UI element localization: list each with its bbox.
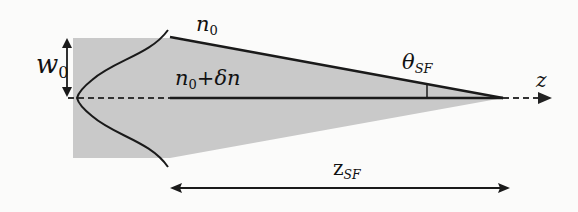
label-z-sf: zSF [333,158,361,181]
label-n0d-rest: +δn [197,66,241,90]
diagram-canvas [0,0,578,212]
label-w0: w0 [36,51,69,81]
label-n0-main: n [196,12,210,36]
label-w0-main: w [36,49,58,79]
label-w0-sub: 0 [58,63,68,82]
z-axis-arrowhead-icon [538,92,552,104]
label-n0-plus-delta-n: n0+δn [175,68,241,91]
label-zsf-sub: SF [344,167,361,182]
label-n0d-main: n [175,66,189,90]
label-theta-sub: SF [415,61,433,76]
label-zsf-main: z [333,156,344,180]
label-theta-main: θ [402,50,415,74]
label-z-main: z [536,68,547,92]
label-theta-sf: θSF [402,52,433,75]
w0-arrowhead-bottom-icon [62,87,72,97]
label-n0-sub: 0 [210,23,218,38]
label-n0: n0 [196,14,218,37]
w0-arrowhead-top-icon [62,38,72,48]
label-n0d-sub: 0 [189,77,197,92]
label-z-axis: z [536,70,547,90]
